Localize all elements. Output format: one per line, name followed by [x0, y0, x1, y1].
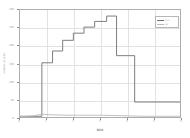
x-axis-label: BVA — [97, 128, 104, 132]
y-tick-mark — [17, 64, 19, 65]
legend-label: sim — [165, 19, 177, 22]
y-tick-mark — [17, 9, 19, 10]
y-tick-label: 300 — [9, 8, 14, 11]
legend-label: ref — [165, 23, 177, 26]
y-tick-mark — [17, 27, 19, 28]
x-tick-label: 0 — [18, 120, 20, 123]
y-tick-mark — [17, 82, 19, 83]
legend-line-sample — [157, 20, 164, 21]
x-tick-label: 1 — [45, 120, 47, 123]
x-tick-label: 3 — [99, 120, 101, 123]
x-tick-label: 2 — [72, 120, 74, 123]
legend-line-sample — [157, 24, 164, 25]
x-tick-label: 6 — [180, 120, 182, 123]
series-line-sim — [20, 16, 180, 116]
y-tick-mark — [17, 118, 19, 119]
y-tick-label: 250 — [9, 26, 14, 29]
y-tick-mark — [17, 100, 19, 101]
y-tick-label: 100 — [9, 81, 14, 84]
x-tick-label: 4 — [126, 120, 128, 123]
legend-entry[interactable]: ref — [157, 22, 177, 26]
y-tick-label: 150 — [9, 63, 14, 66]
y-tick-label: 200 — [9, 44, 14, 47]
y-tick-label: 0 — [12, 117, 14, 120]
y-tick-mark — [17, 45, 19, 46]
chart-figure: 0123456050100150200250300 BVA number of … — [0, 0, 190, 138]
y-tick-label: 50 — [11, 99, 14, 102]
series-line-ref — [20, 114, 180, 117]
legend[interactable]: simref — [155, 16, 179, 28]
x-tick-label: 5 — [153, 120, 155, 123]
y-axis-label: number of users — [3, 52, 6, 73]
